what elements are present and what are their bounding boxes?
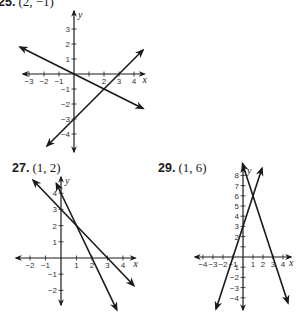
y-tick-label: −2 [230, 273, 240, 282]
x-tick-label: 3 [117, 77, 122, 86]
y-tick-label: 2 [53, 222, 58, 231]
y-tick-label: 6 [235, 192, 240, 201]
y-tick-label: −2 [61, 100, 71, 109]
y-tick-label: 4 [53, 189, 58, 198]
y-tick-label: 3 [53, 205, 58, 214]
y-tick-label: −3 [230, 284, 240, 293]
x-tick-label: 4 [281, 260, 286, 269]
y-tick-label: 8 [235, 171, 240, 180]
x-tick-label: −2 [25, 261, 35, 270]
y-tick-label: −3 [61, 115, 71, 124]
graph-problem-25: −3−2−1234−4−3−2−1123xy [20, 9, 148, 152]
x-tick-label: 1 [251, 260, 256, 269]
x-tick-label: −2 [39, 77, 49, 86]
y-tick-label: −4 [230, 294, 240, 303]
x-tick-label: 2 [261, 260, 266, 269]
y-tick-label: 5 [235, 202, 240, 211]
y-tick-label: 1 [66, 55, 71, 64]
y-tick-label: 1 [53, 238, 58, 247]
x-axis-label: x [288, 257, 294, 268]
y-tick-label: 3 [235, 222, 240, 231]
x-tick-label: −3 [24, 77, 34, 86]
y-tick-label: 7 [235, 182, 240, 191]
x-tick-label: −2 [218, 260, 228, 269]
graph-line [216, 168, 262, 309]
graph-line [243, 164, 289, 303]
x-axis-label: x [142, 74, 148, 85]
x-tick-label: 4 [121, 261, 126, 270]
graphs-canvas: −3−2−1234−4−3−2−1123xy −2−11234−2−11234x… [0, 0, 301, 317]
y-tick-label: 3 [66, 25, 71, 34]
graph-line [56, 183, 116, 309]
y-axis-label: y [64, 175, 70, 186]
x-tick-label: −3 [208, 260, 218, 269]
y-tick-label: −2 [48, 286, 58, 295]
y-axis-label: y [77, 9, 83, 20]
y-tick-label: −1 [48, 270, 58, 279]
x-tick-label: −1 [41, 261, 51, 270]
graph-line [20, 47, 143, 109]
x-tick-label: 3 [105, 261, 110, 270]
x-tick-label: 1 [74, 261, 79, 270]
x-tick-label: 4 [132, 77, 137, 86]
graph-problem-27: −2−11234−2−11234xy [16, 175, 138, 310]
y-tick-label: 4 [235, 212, 240, 221]
x-tick-label: −4 [198, 260, 208, 269]
x-tick-label: 2 [102, 77, 107, 86]
y-tick-label: 2 [66, 40, 71, 49]
graph-line [47, 50, 143, 146]
x-axis-label: x [132, 258, 138, 269]
y-tick-label: −1 [61, 85, 71, 94]
graph-problem-29: −4−3−2−11234−4−3−212345678xy [195, 164, 294, 310]
y-tick-label: 1 [235, 263, 240, 272]
